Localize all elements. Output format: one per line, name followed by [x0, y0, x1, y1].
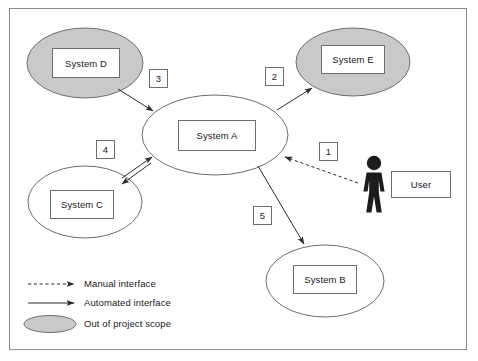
node-system-b-text: System B — [304, 274, 345, 285]
node-system-d-text: System D — [65, 58, 107, 69]
interface-number-3-text: 3 — [156, 73, 161, 84]
node-system-d-label: System D — [52, 48, 120, 78]
connector-3-d-to-a — [118, 89, 153, 111]
connector-4-a-to-c — [122, 163, 151, 184]
legend-manual-text: Manual interface — [84, 278, 156, 289]
interface-number-2: 2 — [265, 67, 284, 86]
legend-item-manual-label: Manual interface — [84, 278, 156, 289]
interface-number-2-text: 2 — [272, 71, 277, 82]
legend-item-automated-label: Automated interface — [84, 297, 171, 308]
node-user-label: User — [391, 171, 451, 198]
legend-out-of-scope-symbol — [24, 316, 76, 333]
actor-user-figure — [363, 156, 384, 213]
connector-2-a-to-e — [277, 88, 312, 110]
diagram-page: System D System E System A System C Syst… — [0, 0, 478, 361]
node-system-e-label: System E — [321, 45, 385, 74]
connector-5-a-to-b — [258, 166, 304, 244]
connector-4-c-to-a — [122, 157, 152, 178]
interface-number-3: 3 — [149, 69, 168, 88]
interface-number-1-text: 1 — [326, 146, 331, 157]
legend-item-out-of-scope-label: Out of project scope — [84, 318, 171, 329]
node-user-text: User — [411, 179, 431, 190]
node-system-a-text: System A — [197, 130, 238, 141]
interface-number-5: 5 — [253, 206, 272, 225]
interface-number-4: 4 — [96, 140, 115, 159]
legend-automated-text: Automated interface — [84, 297, 171, 308]
interface-number-4-text: 4 — [103, 144, 108, 155]
interface-number-1: 1 — [319, 142, 338, 161]
interface-number-5-text: 5 — [260, 210, 265, 221]
node-system-b-label: System B — [293, 265, 357, 294]
node-system-e-text: System E — [332, 54, 373, 65]
legend-out-of-scope-text: Out of project scope — [84, 318, 171, 329]
node-system-c-label: System C — [50, 190, 114, 219]
node-system-a-label: System A — [178, 120, 256, 151]
node-system-c-text: System C — [61, 199, 103, 210]
